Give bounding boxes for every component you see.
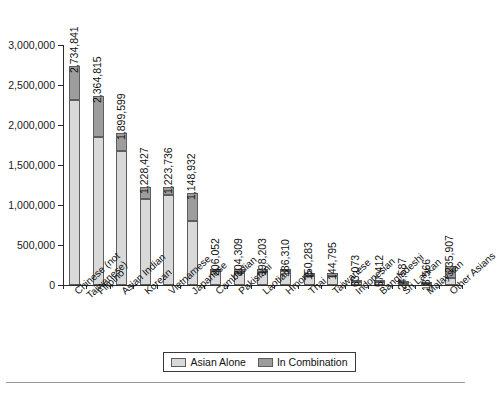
bar-value-label: 1,228,427 [139, 147, 150, 194]
bar-segment-asian-alone [69, 100, 80, 285]
y-axis-tick-label: 2,000,000 [0, 120, 55, 130]
bar-value-label: 235,907 [444, 235, 455, 273]
legend-item-in-combination: In Combination [258, 357, 348, 368]
legend-swatch-asian-alone [171, 358, 186, 367]
bar-value-label: 204,309 [233, 238, 244, 276]
y-axis-tick-label: 3,000,000 [0, 40, 55, 50]
y-axis-tick [58, 205, 63, 206]
bar-value-label: 186,310 [280, 239, 291, 277]
legend-item-asian-alone: Asian Alone [171, 357, 245, 368]
y-axis-tick-label: 0 [0, 280, 55, 290]
bar-value-label: 1,148,932 [186, 153, 197, 200]
bar-filipino [93, 96, 104, 285]
y-axis-tick [58, 165, 63, 166]
bar-value-label: 2,364,815 [92, 56, 103, 103]
chart-legend: Asian Alone In Combination [163, 352, 356, 372]
bar-value-label: 2,734,841 [69, 26, 80, 73]
bar-value-label: 1,223,736 [163, 147, 174, 194]
bottom-divider [6, 382, 465, 383]
bar-value-label: 1,899,599 [116, 93, 127, 140]
bar-value-label: 198,203 [257, 238, 268, 276]
y-axis-tick [58, 125, 63, 126]
y-axis-tick-label: 500,000 [0, 240, 55, 250]
legend-label-asian-alone: Asian Alone [190, 357, 245, 368]
legend-label-in-combination: In Combination [277, 357, 348, 368]
y-axis-tick [58, 85, 63, 86]
y-axis-tick-label: 2,500,000 [0, 80, 55, 90]
x-axis-tick-origin [63, 285, 64, 289]
y-axis-tick-label: 1,000,000 [0, 200, 55, 210]
y-axis-tick [58, 45, 63, 46]
bar-value-label: 150,283 [303, 242, 314, 280]
y-axis-tick [58, 245, 63, 246]
bar-value-label: 144,795 [327, 242, 338, 280]
bar-value-label: 206,052 [210, 238, 221, 276]
legend-swatch-in-combination [258, 358, 273, 367]
bar-chinese-not-taiwanese [69, 66, 80, 285]
y-axis-tick-label: 1,500,000 [0, 160, 55, 170]
